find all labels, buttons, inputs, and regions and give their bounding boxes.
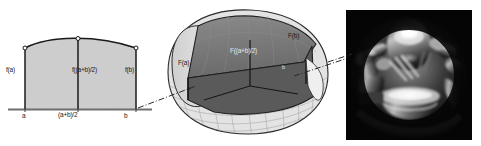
marker-fmid [76, 37, 80, 41]
image-content [351, 17, 467, 134]
ellipsoid-panel: F(a) F((a+b)/2) F(b) a b [152, 0, 342, 146]
tick-label-b-3d: b [282, 65, 285, 71]
label-F-b: F(b) [288, 33, 299, 40]
ellipsoid-svg [152, 0, 342, 146]
label-f-b: f(b) [125, 67, 134, 74]
label-F-a: F(a) [178, 60, 189, 67]
marker-fb [134, 46, 138, 50]
tick-label-a-3d: a [187, 86, 190, 92]
area-fill-grain [25, 38, 136, 109]
label-F-mid: F((a+b)/2) [230, 48, 257, 55]
label-f-a: f(a) [6, 67, 15, 74]
rendered-image-panel [340, 0, 481, 146]
left-plot-panel: f(a) f((a+b)/2) f(b) a (a+b)/2 b [0, 0, 160, 146]
marker-fa [23, 46, 27, 50]
axis-label-b: b [124, 113, 127, 120]
figure-root: f(a) f((a+b)/2) f(b) a (a+b)/2 b [0, 0, 481, 146]
axis-label-mid: (a+b)/2 [58, 112, 77, 119]
axis-label-a: a [22, 113, 25, 120]
label-f-mid: f((a+b)/2) [72, 67, 97, 74]
rendered-image-svg [340, 0, 481, 146]
